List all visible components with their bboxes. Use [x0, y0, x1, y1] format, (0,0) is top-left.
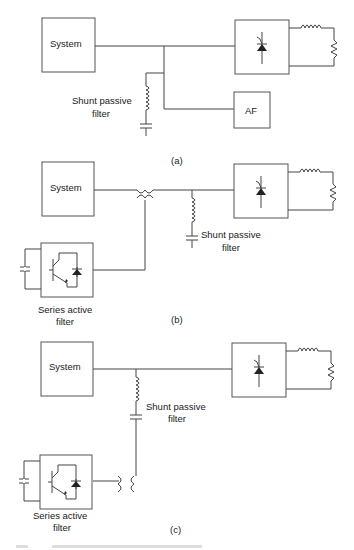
series-active-label: Series active	[38, 304, 92, 315]
shunt-passive-label: Shunt passive	[72, 95, 132, 106]
series-active-label-2: filter	[56, 316, 74, 327]
diagram-c: System Shunt passive filter Series activ…	[19, 342, 334, 535]
series-active-label-2: filter	[53, 522, 71, 533]
caption-c: (c)	[170, 524, 181, 535]
af-label: AF	[245, 105, 257, 116]
shunt-passive-label: Shunt passive	[146, 401, 206, 412]
series-active-label: Series active	[33, 510, 87, 521]
system-label: System	[50, 38, 82, 49]
shunt-passive-label-2: filter	[168, 413, 186, 424]
figure-caption-faint	[16, 545, 202, 548]
diagram-b: System Shunt passive filter Series activ…	[20, 162, 336, 327]
system-label: System	[50, 182, 82, 193]
shunt-passive-label-2: filter	[92, 108, 110, 119]
shunt-passive-label-2: filter	[222, 242, 240, 253]
shunt-passive-label: Shunt passive	[201, 229, 261, 240]
caption-b: (b)	[171, 314, 183, 325]
diagram-a: System AF Shunt passive filter (a)	[42, 18, 337, 166]
system-label: System	[49, 361, 81, 372]
caption-a: (a)	[171, 155, 183, 166]
